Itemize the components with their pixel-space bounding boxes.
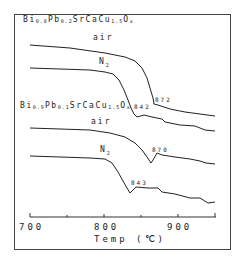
x-axis-title: Temp (℃)	[94, 234, 166, 244]
dta-chart-figure: Bi0.8Pb0.2SrCaCu1.5Ox air N2 872 842 Bi0…	[0, 0, 241, 260]
x-axis	[30, 213, 216, 217]
composition-label-2: Bi0.9Pb0.1SrCaCu1.5Ox	[20, 101, 131, 110]
series-label-g2-air: air	[91, 117, 111, 126]
x-tick-label-800: 800	[94, 222, 119, 232]
annotation-872: 872	[155, 96, 172, 103]
series-label-g1-air: air	[93, 33, 113, 42]
composition-label-1: Bi0.8Pb0.2SrCaCu1.5Ox	[23, 15, 134, 24]
series-label-g2-n2: N2	[100, 145, 112, 156]
curve-g2-n2	[30, 156, 215, 203]
annotation-842: 842	[134, 103, 151, 110]
x-tick-label-700: 700	[19, 222, 44, 232]
chart-plot-area	[0, 0, 241, 260]
x-tick-label-900: 900	[167, 222, 192, 232]
annotation-843: 843	[131, 179, 148, 186]
annotation-870: 870	[152, 146, 169, 153]
series-label-g1-n2: N2	[99, 57, 111, 68]
curve-g2-air	[30, 128, 215, 164]
curve-g1-n2	[30, 68, 215, 131]
